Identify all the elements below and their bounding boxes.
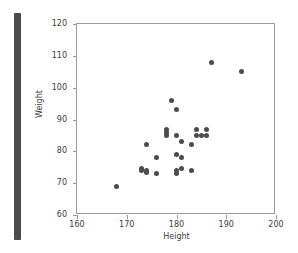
x-tick	[127, 215, 128, 219]
y-tick-label: 110	[52, 52, 67, 60]
data-point	[154, 155, 159, 160]
y-tick: 110	[73, 56, 77, 57]
data-point	[174, 107, 179, 112]
y-tick-label: 90	[57, 116, 67, 124]
y-tick-label: 120	[52, 20, 67, 28]
y-tick: 100	[73, 88, 77, 89]
data-point	[189, 168, 194, 173]
y-tick-label: 80	[57, 147, 67, 155]
scatter-plot-figure: 60708090100110120 160170180190200 Height…	[0, 0, 298, 253]
data-point	[194, 127, 199, 132]
page-edge-bar	[14, 13, 21, 240]
x-tick-label: 170	[119, 221, 134, 229]
x-tick-label: 190	[219, 221, 234, 229]
y-tick-label: 60	[57, 211, 67, 219]
y-tick: 70	[73, 183, 77, 184]
data-point	[209, 60, 214, 65]
x-tick-label: 160	[69, 221, 84, 229]
data-point	[164, 133, 169, 138]
y-tick: 80	[73, 151, 77, 152]
y-tick-label: 70	[57, 179, 67, 187]
x-tick	[226, 215, 227, 219]
data-point	[144, 170, 149, 175]
x-tick	[276, 215, 277, 219]
data-point	[164, 127, 169, 132]
y-tick: 120	[73, 24, 77, 25]
plot-area: 60708090100110120 160170180190200 Height	[76, 23, 275, 214]
x-tick	[77, 215, 78, 219]
data-point	[174, 133, 179, 138]
x-axis-label: Height	[77, 233, 276, 241]
x-tick	[177, 215, 178, 219]
data-point	[179, 166, 184, 171]
data-point	[204, 127, 209, 132]
data-point	[154, 171, 159, 176]
y-tick: 90	[73, 120, 77, 121]
data-point	[114, 184, 119, 189]
x-tick-label: 180	[169, 221, 184, 229]
data-point	[179, 139, 184, 144]
y-tick-label: 100	[52, 84, 67, 92]
data-point	[239, 69, 244, 74]
data-point	[144, 142, 149, 147]
y-axis-label: Weight	[36, 90, 44, 118]
data-point	[169, 98, 174, 103]
data-point	[189, 142, 194, 147]
data-point	[179, 155, 184, 160]
data-point	[204, 133, 209, 138]
x-tick-label: 200	[268, 221, 283, 229]
